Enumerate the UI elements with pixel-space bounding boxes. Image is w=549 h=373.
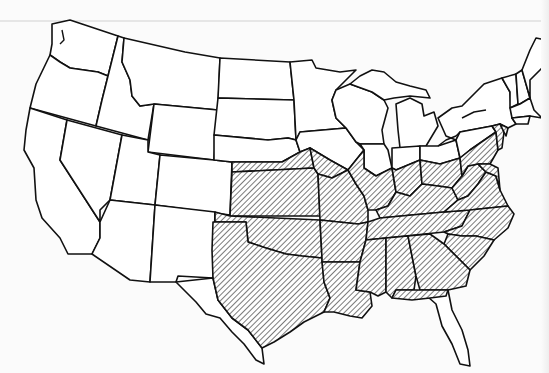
state-south-dakota xyxy=(214,98,296,140)
page-edge-shadow xyxy=(541,0,549,373)
us-range-map xyxy=(0,0,549,373)
state-kansas xyxy=(230,168,320,216)
state-north-dakota xyxy=(218,58,294,100)
state-arizona xyxy=(92,200,155,282)
state-wyoming xyxy=(148,104,218,160)
state-arkansas xyxy=(320,220,368,262)
state-nebraska-north xyxy=(214,135,300,162)
state-new-mexico xyxy=(150,205,215,282)
state-rhode-island xyxy=(512,116,530,124)
state-montana xyxy=(122,38,220,110)
state-michigan-lower xyxy=(396,98,438,148)
state-florida-peninsula xyxy=(420,290,470,366)
